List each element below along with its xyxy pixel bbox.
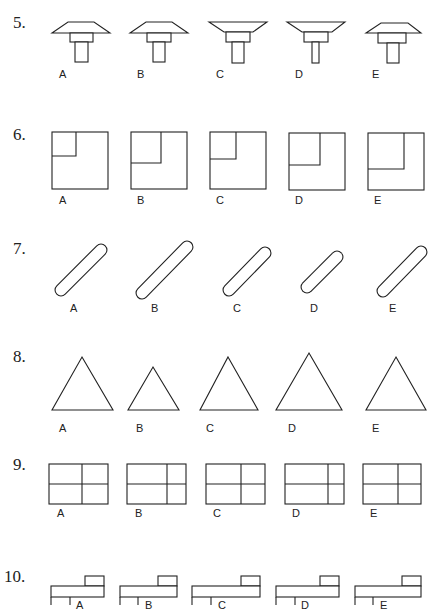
q7-option-b-figure [142,247,187,293]
q6-option-a-label[interactable]: A [59,194,66,206]
q7-option-e-label[interactable]: E [389,302,396,314]
q5-option-a-figure [52,22,110,62]
q7-option-c-figure [229,253,265,290]
q6-option-d-figure [289,133,345,190]
q8-option-e-label[interactable]: E [372,422,379,434]
q6-option-d-label[interactable]: D [295,194,303,206]
q8-option-d-figure [276,353,342,410]
q8-option-b-figure [128,367,179,410]
q5-option-a-label[interactable]: A [59,68,66,80]
q10-option-c-label[interactable]: C [218,599,226,611]
q10-option-a-label[interactable]: A [76,599,83,611]
q5-option-c-figure [209,22,267,63]
q5-option-b-label[interactable]: B [137,68,144,80]
q8-option-d-label[interactable]: D [288,422,296,434]
q5-option-e-label[interactable]: E [372,68,379,80]
q9-option-e-figure [363,464,421,504]
q5-option-b-figure [130,22,188,62]
q8-option-b-label[interactable]: B [136,422,143,434]
q10-option-e-label[interactable]: E [380,599,387,611]
q9-option-c-figure [206,464,265,504]
q9-option-a-label[interactable]: A [57,507,64,519]
q9-option-c-label[interactable]: C [213,507,221,519]
q6-option-b-label[interactable]: B [137,194,144,206]
q8-option-c-label[interactable]: C [206,422,214,434]
q6-option-a-figure [52,132,108,189]
q7-option-d-label[interactable]: D [310,302,318,314]
q5-option-e-figure [366,23,421,63]
q9-option-d-figure [285,464,344,504]
q8-option-e-figure [366,357,426,410]
q5-option-c-label[interactable]: C [216,68,224,80]
q6-option-e-label[interactable]: E [374,194,381,206]
q10-option-c-figure [192,576,260,605]
q9-option-d-label[interactable]: D [292,507,300,519]
q6-option-b-figure [131,132,187,189]
q5-option-d-figure [287,22,345,63]
q9-option-b-figure [127,464,186,504]
q10-option-e-figure [355,576,421,605]
q7-option-b-label[interactable]: B [151,302,158,314]
q7-option-c-label[interactable]: C [233,302,241,314]
q9-option-a-figure [49,464,108,504]
q9-option-e-label[interactable]: E [370,507,377,519]
q7-option-e-figure [383,252,421,291]
q8-option-c-figure [200,357,258,410]
q6-option-c-label[interactable]: C [216,194,224,206]
q7-option-a-figure [61,250,101,290]
q5-option-d-label[interactable]: D [295,68,303,80]
q7-option-a-label[interactable]: A [70,302,77,314]
q7-option-d-figure [307,257,337,287]
q6-option-e-figure [368,133,424,190]
q8-option-a-figure [52,357,113,410]
q9-option-b-label[interactable]: B [135,507,142,519]
q8-option-a-label[interactable]: A [59,422,66,434]
q6-option-c-figure [210,132,266,189]
q10-option-d-label[interactable]: D [301,599,309,611]
q10-option-b-label[interactable]: B [145,599,152,611]
